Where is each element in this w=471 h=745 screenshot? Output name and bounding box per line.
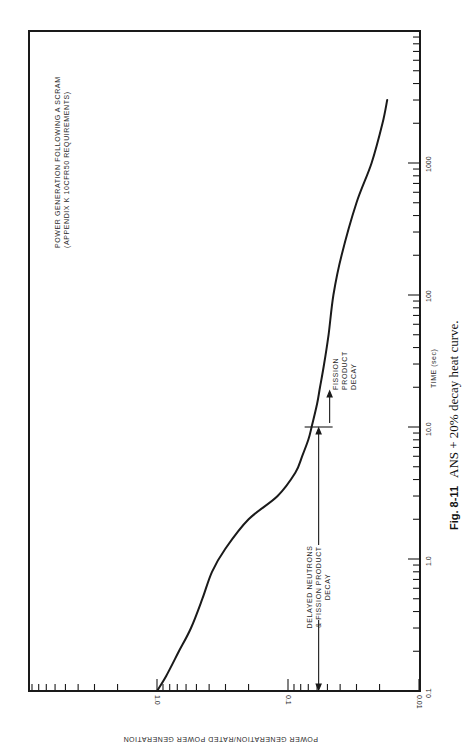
power-axis-ticks [32,679,419,691]
time-tick-label: 0.1 [425,688,432,698]
delayed-line1: DELAYED NEUTRONS [305,539,314,635]
time-tick-label: 10.0 [425,422,432,436]
figure-caption: Fig. 8-11ANS + 20% decay heat curve. [446,320,462,530]
delayed-neutrons-annotation: DELAYED NEUTRONS & FISSION PRODUCT DECAY [305,539,332,635]
power-tick-label: 1.0 [154,695,161,705]
fission-line2: PRODUCT [340,351,349,390]
delayed-line2: & FISSION PRODUCT [314,539,323,635]
delayed-line3: DECAY [323,539,332,635]
plot-frame [29,31,420,691]
caption-number: Fig. 8-11 [448,486,460,530]
time-axis-title: TIME (sec) [430,349,437,388]
fission-line1: FISSION [331,351,340,390]
power-tick-label: 0.01 [416,695,423,709]
decay-heat-curve [157,100,387,691]
power-tick-label: 0.1 [285,695,292,705]
time-axis-ticks [408,37,420,691]
time-tick-label: 100 [425,290,432,302]
fission-product-annotation: FISSION PRODUCT DECAY [331,351,358,390]
time-tick-label: 1.0 [425,556,432,566]
time-tick-label: 1000 [425,156,432,172]
fission-line3: DECAY [349,351,358,390]
caption-text: ANS + 20% decay heat curve. [446,320,461,478]
power-axis-title: POWER GENERATION/RATED POWER GENERATION [123,736,318,743]
chart-title-line1: POWER GENERATION FOLLOWING A SCRAM [53,76,62,248]
chart-title-line2: (APPENDIX K 10CFR50 REQUIREMENTS) [62,76,71,248]
chart-title-annotation: POWER GENERATION FOLLOWING A SCRAM (APPE… [53,76,71,248]
